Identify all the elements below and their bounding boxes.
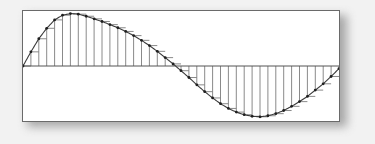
sample-marker: [23, 65, 24, 68]
sample-marker: [37, 37, 40, 40]
figure-container: [0, 0, 375, 144]
sample-marker: [314, 89, 317, 92]
sample-marker: [322, 82, 325, 85]
sample-marker: [30, 50, 33, 53]
sample-marker: [132, 34, 135, 37]
stem-group: [23, 14, 339, 117]
sample-marker: [140, 39, 143, 42]
sample-marker: [45, 27, 48, 30]
sample-marker: [235, 111, 238, 114]
sample-marker: [219, 102, 222, 105]
sample-marker: [148, 44, 151, 47]
sine-sampling-chart: [23, 11, 339, 121]
sample-marker: [203, 90, 206, 93]
sample-marker: [243, 113, 246, 116]
sample-marker: [124, 30, 127, 33]
sample-marker: [77, 13, 80, 16]
sample-marker: [188, 76, 191, 79]
sample-marker: [282, 109, 285, 112]
sample-marker: [259, 115, 262, 118]
sample-marker: [180, 69, 183, 72]
sample-marker: [69, 12, 72, 15]
sample-marker: [306, 95, 309, 98]
sample-marker: [85, 15, 88, 18]
sample-marker: [164, 56, 167, 59]
sample-marker: [61, 14, 64, 17]
sample-marker: [290, 105, 293, 108]
sample-marker: [195, 83, 198, 86]
sample-marker: [101, 20, 104, 23]
sample-marker: [227, 107, 230, 110]
sample-marker: [298, 100, 301, 103]
sample-marker: [93, 17, 96, 20]
sample-marker: [156, 50, 159, 53]
sample-marker: [274, 112, 277, 115]
sample-marker: [116, 26, 119, 29]
chart-frame: [22, 10, 340, 122]
sample-marker: [211, 97, 214, 100]
sample-marker: [267, 114, 270, 117]
sample-marker: [330, 75, 333, 78]
sample-marker: [251, 115, 254, 118]
sample-marker: [172, 63, 175, 66]
sample-marker: [53, 19, 56, 22]
sample-marker: [109, 23, 112, 26]
